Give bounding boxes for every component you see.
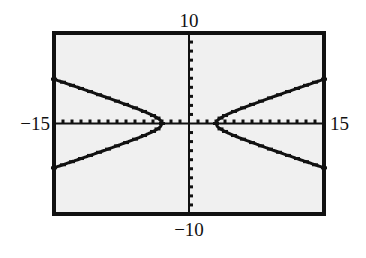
curve-point xyxy=(285,90,291,93)
curve-point xyxy=(276,93,282,96)
curve-point xyxy=(231,110,237,113)
curve-point xyxy=(141,110,147,113)
curve-point xyxy=(60,81,66,84)
curve-point xyxy=(240,106,246,109)
curve-point xyxy=(105,148,111,151)
curve-point xyxy=(213,122,219,125)
xmax-label: 15 xyxy=(330,113,349,134)
curve-point xyxy=(132,106,138,109)
curve-point xyxy=(132,138,138,141)
curve-point xyxy=(105,96,111,99)
curve-point xyxy=(285,154,291,157)
curve-point xyxy=(150,114,156,117)
curve-point xyxy=(78,157,84,160)
curve-point xyxy=(312,81,318,84)
curve-point xyxy=(276,151,282,154)
xmin-label: −15 xyxy=(20,113,50,134)
curve-point xyxy=(159,122,165,125)
ymin-label: −10 xyxy=(174,219,204,240)
curve-point xyxy=(294,87,300,90)
curve-point xyxy=(78,87,84,90)
curve-point xyxy=(87,154,93,157)
curve-point xyxy=(249,103,255,106)
ymax-label: 10 xyxy=(180,10,199,31)
curve-point xyxy=(123,103,129,106)
curve-point xyxy=(231,134,237,137)
curve-point xyxy=(96,93,102,96)
curve-point xyxy=(87,90,93,93)
curve-point xyxy=(222,114,228,117)
curve-point xyxy=(258,100,264,103)
curve-point xyxy=(60,163,66,166)
curve-point xyxy=(303,84,309,87)
curve-point xyxy=(267,148,273,151)
curve-point xyxy=(96,151,102,154)
curve-point xyxy=(249,141,255,144)
curve-point xyxy=(123,141,129,144)
curve-point xyxy=(240,138,246,141)
curve-point xyxy=(258,144,264,147)
curve-point xyxy=(141,134,147,137)
curve-point xyxy=(294,157,300,160)
curve-point xyxy=(303,160,309,163)
hyperbola-chart: 10 −10 −15 15 xyxy=(0,0,366,258)
curve-point xyxy=(267,96,273,99)
curve-point xyxy=(114,100,120,103)
curve-point xyxy=(69,160,75,163)
curve-point xyxy=(114,144,120,147)
curve-point xyxy=(222,130,228,133)
curve-point xyxy=(69,84,75,87)
curve-point xyxy=(150,130,156,133)
curve-point xyxy=(312,163,318,166)
